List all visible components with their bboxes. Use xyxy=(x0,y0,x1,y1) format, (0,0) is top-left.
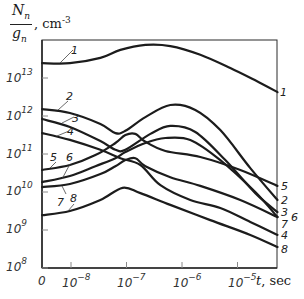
chart-canvas xyxy=(0,0,304,299)
y-tick-label: 108 xyxy=(6,258,27,274)
y-tick-label: 109 xyxy=(6,220,27,236)
y-tick-label: 1010 xyxy=(6,182,33,198)
y-label-N-sub: n xyxy=(24,11,30,21)
curve-label-8: 8 xyxy=(281,243,288,256)
x-label-units: , sec xyxy=(261,273,291,288)
curve-label-8: 8 xyxy=(70,192,77,205)
y-label-N: N xyxy=(12,2,24,18)
curve-label-1: 1 xyxy=(71,44,78,57)
x-tick-label: 10−7 xyxy=(117,274,146,290)
axis-ticks xyxy=(42,78,238,268)
curve-3 xyxy=(42,119,277,212)
y-label-g-sub: n xyxy=(21,34,27,44)
curve-label-3: 3 xyxy=(72,112,79,125)
x-tick-label: 10−5 xyxy=(228,274,257,290)
curve-label-2: 2 xyxy=(66,90,73,103)
y-units-text: , cm xyxy=(34,16,62,31)
y-axis-label-units: , cm-3 xyxy=(34,15,71,31)
curve-label-4: 4 xyxy=(67,125,74,138)
curve-label-7: 7 xyxy=(57,196,64,209)
y-units-exp: -3 xyxy=(62,15,71,25)
y-tick-label: 1011 xyxy=(6,145,33,161)
curve-label-4: 4 xyxy=(281,229,288,242)
data-curves xyxy=(42,45,277,248)
curve-label-5: 5 xyxy=(281,180,288,193)
curve-label-6: 6 xyxy=(291,211,298,224)
curve-label-1: 1 xyxy=(280,86,287,99)
y-label-g: g xyxy=(12,25,21,41)
curve-label-leader xyxy=(62,186,66,194)
x-tick-label: 10−6 xyxy=(173,274,202,290)
y-tick-label: 1012 xyxy=(6,107,33,123)
y-axis-label-denominator: gn xyxy=(12,25,27,44)
x-axis-label: t, sec xyxy=(256,273,291,288)
x-tick-label-origin: 0 xyxy=(38,274,46,288)
y-tick-label: 1013 xyxy=(6,69,33,85)
x-tick-label: 10−8 xyxy=(62,274,91,290)
curve-label-5: 5 xyxy=(50,151,57,164)
y-axis-label-numerator: Nn xyxy=(12,2,30,21)
curve-label-6: 6 xyxy=(66,151,73,164)
